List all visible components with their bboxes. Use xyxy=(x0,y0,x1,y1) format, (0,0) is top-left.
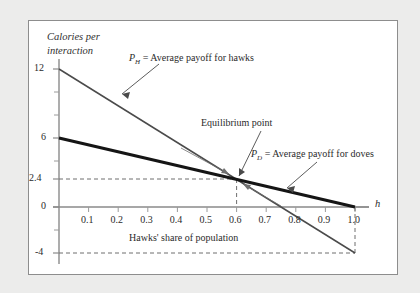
equilibrium-point-label: Equilibrium point xyxy=(201,118,272,128)
x-tick-label-0p3: 0.3 xyxy=(140,215,153,225)
x-tick-label-1p0: 1.0 xyxy=(347,215,360,225)
doves-series-label: PD = Average payoff for doves xyxy=(251,149,374,162)
y-tick-label-6: 6 xyxy=(41,132,46,142)
y-axis-title-line1: Calories per xyxy=(47,32,100,43)
x-tick-label-0p4: 0.4 xyxy=(170,215,183,225)
intersection-pointer-upper xyxy=(181,148,229,174)
x-axis-variable-label: h xyxy=(375,199,380,210)
y-tick-label-2p4: 2.4 xyxy=(29,173,42,183)
x-tick-label-0p8: 0.8 xyxy=(288,215,301,225)
chart-figure-frame: Calories per interaction 12 6 2.4 0 -4 0… xyxy=(28,20,398,275)
hawks-label-arrow xyxy=(122,64,159,99)
x-tick-label-0p7: 0.7 xyxy=(259,215,272,225)
x-tick-label-0p9: 0.9 xyxy=(318,215,331,225)
hawks-label-text: = Average payoff for hawks xyxy=(140,52,254,63)
x-tick-label-0p5: 0.5 xyxy=(199,215,212,225)
y-axis-title-line2: interaction xyxy=(47,46,93,57)
y-tick-label-neg4: -4 xyxy=(35,247,43,257)
doves-label-arrow xyxy=(287,162,317,193)
x-tick-label-0p6: 0.6 xyxy=(229,215,242,225)
y-tick-label-0: 0 xyxy=(41,201,46,211)
figure-page: Calories per interaction 12 6 2.4 0 -4 0… xyxy=(0,0,420,293)
hawks-series-label: PH = Average payoff for hawks xyxy=(129,53,254,66)
x-axis-caption: Hawks' share of population xyxy=(129,233,238,243)
x-tick-label-0p1: 0.1 xyxy=(81,215,94,225)
doves-label-text: = Average payoff for doves xyxy=(262,148,374,159)
y-tick-label-12: 12 xyxy=(34,63,44,73)
x-tick-label-0p2: 0.2 xyxy=(111,215,124,225)
